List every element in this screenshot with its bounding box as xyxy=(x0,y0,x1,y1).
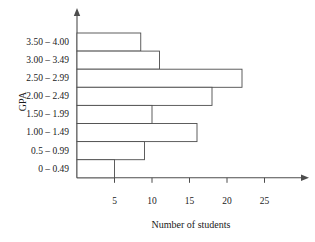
bar xyxy=(77,142,145,160)
bar xyxy=(77,33,141,51)
x-axis-tick-label: 15 xyxy=(179,196,201,206)
bar xyxy=(77,124,197,142)
x-axis-title: Number of students xyxy=(77,219,305,230)
y-axis-arrow-icon xyxy=(74,8,80,16)
x-axis-tick-label: 10 xyxy=(141,196,163,206)
x-axis-tick-label: 20 xyxy=(216,196,238,206)
x-axis-tick-label: 25 xyxy=(254,196,276,206)
gpa-histogram-chart: GPA 3.50 – 4.003.00 – 3.492.50 – 2.992.0… xyxy=(0,0,315,242)
bar xyxy=(77,160,115,178)
x-axis-arrow-icon xyxy=(301,175,309,181)
x-axis-tick-label: 5 xyxy=(104,196,126,206)
bar xyxy=(77,69,242,87)
bar xyxy=(77,105,152,123)
bar xyxy=(77,51,160,69)
bar xyxy=(77,87,212,105)
